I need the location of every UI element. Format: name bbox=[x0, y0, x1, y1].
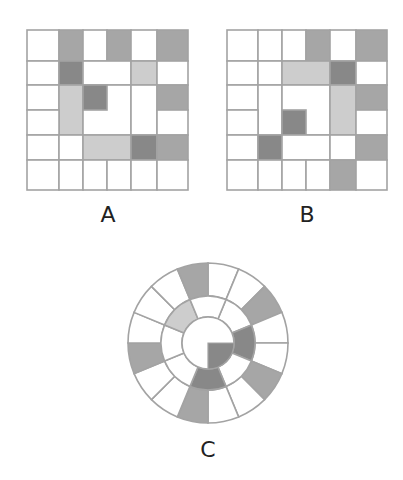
grid-cell-white bbox=[282, 135, 330, 160]
grid-cell-dark bbox=[131, 135, 157, 160]
grid-cell-medium bbox=[306, 30, 330, 61]
grid-cell-white bbox=[227, 30, 258, 61]
diagram-canvas bbox=[0, 0, 403, 480]
grid-cell-white bbox=[227, 61, 258, 85]
grid-cell-white bbox=[59, 160, 83, 190]
grid-cell-medium bbox=[157, 85, 188, 110]
grid-cell-white bbox=[282, 160, 306, 190]
grid-cell-white bbox=[227, 160, 258, 190]
grid-cell-white bbox=[27, 135, 59, 160]
grid-cell-light bbox=[131, 61, 157, 85]
grid-cell-medium bbox=[330, 160, 356, 190]
grid-cell-medium bbox=[59, 30, 83, 61]
grid-cell-white bbox=[83, 160, 107, 190]
grid-cell-white bbox=[27, 110, 59, 135]
grid-cell-white bbox=[282, 30, 306, 61]
wheel-c bbox=[128, 263, 288, 423]
grid-cell-white bbox=[131, 30, 157, 61]
grid-cell-white bbox=[27, 160, 59, 190]
grid-cell-white bbox=[131, 160, 157, 190]
grid-cell-white bbox=[356, 160, 387, 190]
grid-cell-white bbox=[330, 135, 356, 160]
grid-cell-light bbox=[59, 85, 83, 135]
grid-cell-white bbox=[258, 30, 282, 61]
grid-cell-white bbox=[83, 61, 131, 85]
grid-cell-white bbox=[258, 61, 282, 85]
grid-cell-light bbox=[83, 135, 131, 160]
grid-cell-white bbox=[157, 61, 188, 85]
grid-cell-white bbox=[227, 85, 258, 110]
grid-cell-medium bbox=[157, 135, 188, 160]
label-b: B bbox=[287, 202, 327, 227]
grid-a bbox=[27, 30, 188, 190]
grid-cell-light bbox=[282, 61, 330, 85]
grid-cell-white bbox=[306, 160, 330, 190]
grid-cell-white bbox=[157, 110, 188, 135]
label-a: A bbox=[88, 202, 128, 227]
grid-cell-white bbox=[258, 85, 282, 135]
grid-cell-medium bbox=[107, 30, 131, 61]
grid-cell-medium bbox=[157, 30, 188, 61]
label-c: C bbox=[188, 437, 228, 462]
grid-cell-white bbox=[59, 135, 83, 160]
grid-b bbox=[227, 30, 387, 190]
grid-cell-white bbox=[83, 30, 107, 61]
grid-cell-white bbox=[27, 61, 59, 85]
grid-cell-medium bbox=[356, 135, 387, 160]
grid-cell-dark bbox=[282, 110, 306, 135]
grid-cell-dark bbox=[83, 85, 107, 110]
grid-cell-dark bbox=[330, 61, 356, 85]
grid-cell-medium bbox=[356, 30, 387, 61]
grid-cell-light bbox=[330, 85, 356, 135]
grid-cell-white bbox=[227, 135, 258, 160]
grid-cell-white bbox=[227, 110, 258, 135]
grid-cell-dark bbox=[258, 135, 282, 160]
grid-cell-white bbox=[330, 30, 356, 61]
grid-cell-white bbox=[107, 160, 131, 190]
grid-cell-white bbox=[157, 160, 188, 190]
grid-cell-white bbox=[258, 160, 282, 190]
grid-cell-dark bbox=[59, 61, 83, 85]
grid-cell-white bbox=[356, 61, 387, 85]
grid-cell-white bbox=[356, 110, 387, 135]
grid-cell-medium bbox=[356, 85, 387, 110]
grid-cell-white bbox=[27, 30, 59, 61]
grid-cell-white bbox=[131, 85, 157, 135]
grid-cell-white bbox=[27, 85, 59, 110]
